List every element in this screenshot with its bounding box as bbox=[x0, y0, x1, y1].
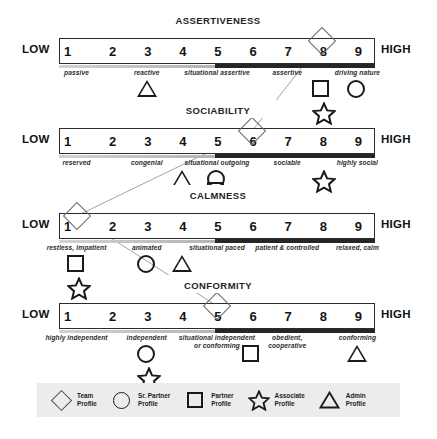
scale-tick[interactable]: 3 bbox=[130, 129, 165, 155]
trait-row: ASSERTIVENESSLOWHIGH123456789passivereac… bbox=[0, 10, 437, 100]
team-profile-diamond-icon[interactable] bbox=[204, 293, 230, 319]
intensity-bar-low bbox=[59, 330, 215, 333]
trait-row: CALMNESSLOWHIGH123456789restless, impati… bbox=[0, 185, 437, 275]
scale-tick[interactable]: 1 bbox=[60, 129, 95, 155]
scale-tick[interactable]: 7 bbox=[271, 304, 306, 330]
trait-title: SOCIABILITY bbox=[148, 100, 288, 118]
diamond-icon bbox=[203, 292, 231, 320]
scale-tick[interactable]: 2 bbox=[95, 214, 130, 240]
legend-label: Admin Profile bbox=[346, 392, 366, 407]
diamond-icon bbox=[62, 202, 90, 230]
legend-item[interactable]: Associate Profile bbox=[245, 387, 305, 413]
triangle-legend-icon bbox=[316, 387, 344, 413]
high-label: HIGH bbox=[381, 133, 411, 145]
trait-title-text: SOCIABILITY bbox=[186, 105, 251, 116]
legend-label: Sr. Partner Profile bbox=[138, 392, 170, 407]
team-profile-diamond-icon[interactable] bbox=[239, 118, 265, 144]
legend-item[interactable]: Team Profile bbox=[47, 387, 97, 413]
scale-box: 123456789 bbox=[59, 128, 375, 154]
high-label: HIGH bbox=[381, 218, 411, 230]
scale-tick[interactable]: 7 bbox=[271, 39, 306, 65]
high-label: HIGH bbox=[381, 308, 411, 320]
trait-title: CALMNESS bbox=[148, 185, 288, 203]
trait-row: CONFORMITYLOWHIGH123456789highly indepen… bbox=[0, 275, 437, 365]
scale-tick[interactable]: 4 bbox=[165, 304, 200, 330]
circle-marker-icon[interactable] bbox=[137, 345, 155, 363]
square-icon bbox=[187, 392, 203, 408]
scale-tick[interactable]: 6 bbox=[236, 214, 271, 240]
legend-item[interactable]: Sr. Partner Profile bbox=[108, 387, 170, 413]
low-label: LOW bbox=[22, 308, 50, 320]
triangle-marker-icon[interactable] bbox=[172, 255, 192, 272]
scale-tick[interactable]: 5 bbox=[200, 214, 235, 240]
square-icon bbox=[67, 255, 84, 272]
low-label: LOW bbox=[22, 218, 50, 230]
scale-tick[interactable]: 1 bbox=[60, 304, 95, 330]
scale-tick[interactable]: 8 bbox=[306, 304, 341, 330]
legend-label: Partner Profile bbox=[211, 392, 233, 407]
diamond-icon bbox=[238, 117, 266, 145]
intensity-bar-low bbox=[59, 240, 215, 243]
scale-tick[interactable]: 7 bbox=[271, 129, 306, 155]
circle-marker-icon[interactable] bbox=[137, 255, 155, 273]
scale-tick[interactable]: 8 bbox=[306, 214, 341, 240]
scale-tick[interactable]: 3 bbox=[130, 214, 165, 240]
triangle-icon bbox=[319, 391, 340, 409]
intensity-bar bbox=[59, 239, 375, 243]
personality-profile-chart: ASSERTIVENESSLOWHIGH123456789passivereac… bbox=[0, 0, 437, 439]
legend-label: Associate Profile bbox=[275, 392, 305, 407]
triangle-marker-icon[interactable] bbox=[137, 80, 157, 97]
scale-tick[interactable]: 5 bbox=[200, 129, 235, 155]
scale-tick[interactable]: 4 bbox=[165, 214, 200, 240]
high-label: HIGH bbox=[381, 43, 411, 55]
team-profile-diamond-icon[interactable] bbox=[309, 28, 335, 54]
legend: Team ProfileSr. Partner ProfilePartner P… bbox=[37, 383, 400, 417]
scale-tick[interactable]: 4 bbox=[165, 39, 200, 65]
trait-row: SOCIABILITYLOWHIGH123456789reservedconge… bbox=[0, 100, 437, 190]
team-profile-diamond-icon[interactable] bbox=[64, 203, 90, 229]
diamond-icon bbox=[308, 27, 336, 55]
low-label: LOW bbox=[22, 43, 50, 55]
intensity-bar bbox=[59, 64, 375, 68]
square-marker-icon[interactable] bbox=[242, 345, 259, 362]
intensity-bar-high bbox=[215, 329, 375, 333]
triangle-marker-icon[interactable] bbox=[347, 345, 367, 362]
scale-tick[interactable]: 9 bbox=[341, 304, 376, 330]
intensity-bar bbox=[59, 329, 375, 333]
circle-icon bbox=[113, 392, 130, 409]
scale-tick[interactable]: 9 bbox=[341, 214, 376, 240]
scale-tick[interactable]: 8 bbox=[306, 129, 341, 155]
intensity-bar-low bbox=[59, 155, 215, 158]
scale-tick[interactable]: 3 bbox=[130, 39, 165, 65]
square-marker-icon[interactable] bbox=[67, 255, 84, 272]
scale-tick[interactable]: 7 bbox=[271, 214, 306, 240]
scale-tick[interactable]: 6 bbox=[236, 304, 271, 330]
triangle-icon bbox=[172, 255, 192, 272]
trait-title-text: ASSERTIVENESS bbox=[176, 15, 261, 26]
circle-icon bbox=[347, 80, 365, 98]
trait-title-text: CONFORMITY bbox=[184, 280, 252, 291]
scale-tick[interactable]: 2 bbox=[95, 129, 130, 155]
scale-tick[interactable]: 6 bbox=[236, 39, 271, 65]
scale-tick[interactable]: 4 bbox=[165, 129, 200, 155]
square-marker-icon[interactable] bbox=[312, 80, 329, 97]
square-legend-icon bbox=[181, 387, 209, 413]
intensity-bar-high bbox=[215, 239, 375, 243]
circle-marker-icon[interactable] bbox=[347, 80, 365, 98]
scale-tick[interactable]: 5 bbox=[200, 39, 235, 65]
descriptor-label: driving nature bbox=[312, 69, 402, 77]
legend-item[interactable]: Partner Profile bbox=[181, 387, 233, 413]
triangle-icon bbox=[347, 345, 367, 362]
scale-tick[interactable]: 9 bbox=[341, 129, 376, 155]
legend-item[interactable]: Admin Profile bbox=[316, 387, 366, 413]
trait-title: CONFORMITY bbox=[148, 275, 288, 293]
scale-tick[interactable]: 1 bbox=[60, 39, 95, 65]
trait-title: ASSERTIVENESS bbox=[148, 10, 288, 28]
descriptor-label: relaxed, calm bbox=[312, 244, 402, 252]
diamond-icon bbox=[50, 389, 71, 410]
intensity-bar-low bbox=[59, 65, 215, 68]
scale-tick[interactable]: 3 bbox=[130, 304, 165, 330]
scale-tick[interactable]: 9 bbox=[341, 39, 376, 65]
scale-tick[interactable]: 2 bbox=[95, 39, 130, 65]
scale-tick[interactable]: 2 bbox=[95, 304, 130, 330]
